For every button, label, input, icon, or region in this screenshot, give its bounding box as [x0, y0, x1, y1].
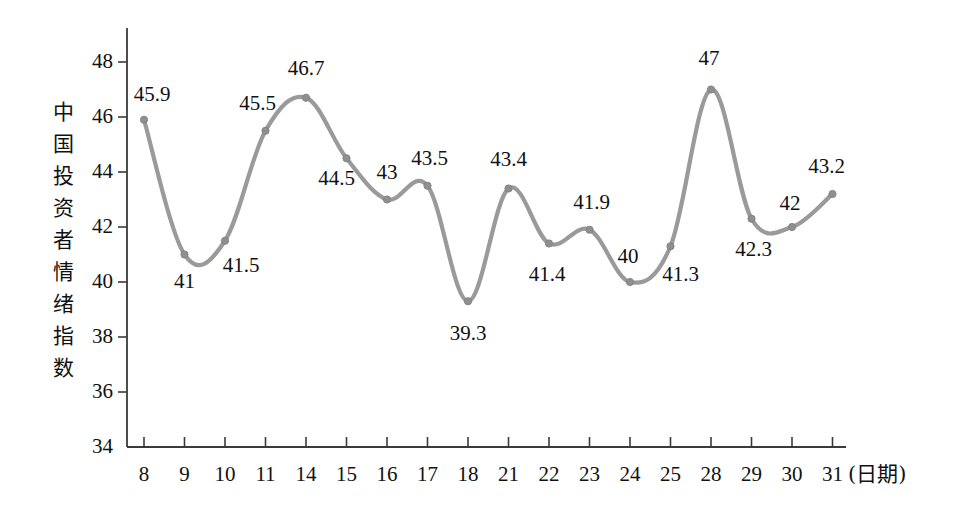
data-point-value-label: 43.5 [411, 148, 448, 169]
data-point-value-label: 41.4 [529, 264, 566, 285]
data-point-marker [748, 215, 755, 222]
data-point-value-label: 42 [780, 193, 801, 214]
data-point-marker [829, 190, 836, 197]
data-point-value-label: 43.4 [490, 149, 527, 170]
data-point-value-label: 43 [377, 162, 398, 183]
data-point-value-label: 45.5 [239, 93, 276, 114]
data-point-marker [545, 240, 552, 247]
data-point-marker [302, 94, 309, 101]
data-point-marker [667, 243, 674, 250]
data-point-value-label: 41.9 [573, 192, 610, 213]
data-point-value-label: 42.3 [735, 239, 772, 260]
data-point-marker [464, 298, 471, 305]
data-point-value-label: 47 [699, 48, 720, 69]
data-point-marker [626, 278, 633, 285]
chart-page: 中 国 投 资 者 情 绪 指 数 3436384042444648 89101… [0, 0, 953, 525]
data-point-marker [181, 251, 188, 258]
data-point-marker [383, 196, 390, 203]
data-point-marker [707, 86, 714, 93]
data-point-value-label: 41.5 [223, 255, 260, 276]
data-point-marker [140, 116, 147, 123]
data-point-value-label: 46.7 [288, 58, 325, 79]
data-point-marker [788, 223, 795, 230]
data-point-marker [221, 237, 228, 244]
data-point-value-label: 41.3 [662, 264, 699, 285]
data-point-value-label: 44.5 [318, 168, 355, 189]
data-point-value-label: 41 [174, 271, 195, 292]
data-point-marker [343, 155, 350, 162]
line-chart-plot [0, 0, 953, 525]
data-point-marker [262, 127, 269, 134]
data-point-marker [505, 185, 512, 192]
data-point-value-label: 43.2 [808, 156, 845, 177]
data-point-marker [586, 226, 593, 233]
data-point-value-label: 39.3 [450, 323, 487, 344]
data-point-value-label: 45.9 [134, 84, 171, 105]
data-point-marker [424, 182, 431, 189]
data-point-value-label: 40 [618, 246, 639, 267]
